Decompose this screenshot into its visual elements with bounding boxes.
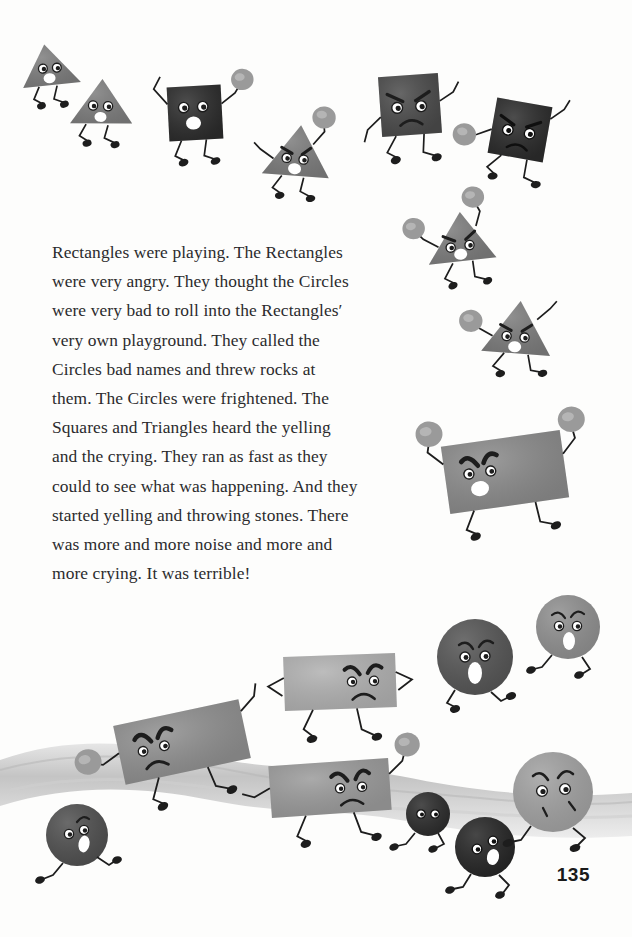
rock: [460, 185, 485, 209]
character-circle-3: [502, 752, 593, 853]
character-square-1: [153, 68, 258, 169]
book-page: Rectangles were playing. The Rectangles …: [0, 0, 632, 937]
character-circle-1: [437, 619, 517, 714]
character-square-2: [360, 72, 464, 168]
character-triangle-1: [20, 42, 82, 112]
rock: [401, 217, 426, 241]
rock: [311, 105, 337, 129]
rock: [556, 405, 586, 434]
page-number: 135: [557, 864, 590, 886]
character-triangle-3: [248, 100, 336, 206]
rock: [231, 68, 255, 90]
character-triangle-5: [454, 293, 556, 383]
rock: [451, 121, 478, 147]
character-triangle-4: [398, 184, 500, 296]
character-triangle-2: [69, 77, 135, 150]
character-circle-6: [34, 804, 123, 885]
character-rectangle-2: [267, 653, 414, 746]
story-paragraph: Rectangles were playing. The Rectangles …: [52, 238, 358, 588]
character-rectangle-3: [66, 683, 277, 827]
rock: [414, 420, 444, 449]
character-square-3: [446, 81, 570, 193]
character-rectangle-1: [414, 400, 600, 548]
character-circle-5: [444, 817, 515, 900]
character-circle-2: [525, 595, 600, 680]
rock: [394, 732, 421, 757]
